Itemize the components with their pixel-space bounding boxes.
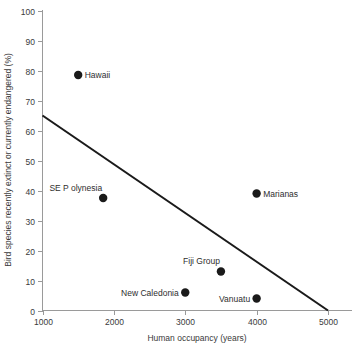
scatter-plot-figure: 0102030405060708090100 10002000300040005… <box>0 0 356 347</box>
data-point-label: Fiji Group <box>183 256 220 266</box>
y-tick-label: 90 <box>26 37 36 47</box>
data-point-marker <box>252 294 260 302</box>
data-point: SE P olynesia <box>49 183 107 203</box>
x-tick-marks <box>44 311 329 316</box>
y-tick-label: 0 <box>30 307 35 317</box>
data-point: Vanuatu <box>219 294 261 304</box>
data-points-group: HawaiiSE P olynesiaNew CaledoniaFiji Gro… <box>49 70 298 304</box>
data-point-marker <box>252 189 260 197</box>
y-tick-label: 60 <box>26 127 36 137</box>
data-point-label: New Caledonia <box>121 288 179 298</box>
data-point: Hawaii <box>74 70 110 80</box>
data-point: New Caledonia <box>121 288 189 298</box>
data-point-label: Marianas <box>263 189 298 199</box>
data-point-marker <box>217 267 225 275</box>
x-tick-label: 2000 <box>105 317 124 327</box>
data-point-label: SE P olynesia <box>49 183 102 193</box>
y-tick-label: 50 <box>26 157 36 167</box>
y-tick-marks <box>38 12 43 312</box>
data-point-marker <box>99 194 107 202</box>
y-tick-label: 70 <box>26 97 36 107</box>
x-tick-labels: 10002000300040005000 <box>34 317 338 327</box>
data-point-label: Hawaii <box>85 70 111 80</box>
x-tick-label: 5000 <box>319 317 338 327</box>
data-point-marker <box>74 71 82 79</box>
x-axis: 10002000300040005000 <box>34 311 352 328</box>
data-point-marker <box>181 288 189 296</box>
regression-trend-line <box>43 116 329 311</box>
plot-canvas: 0102030405060708090100 10002000300040005… <box>0 0 356 347</box>
y-axis-title: Bird species recently extinct or current… <box>3 53 13 267</box>
y-tick-label: 20 <box>26 247 36 257</box>
data-point: Fiji Group <box>183 256 225 276</box>
x-tick-label: 1000 <box>34 317 53 327</box>
y-tick-label: 100 <box>21 7 35 17</box>
y-tick-label: 40 <box>26 187 36 197</box>
trend-line-group <box>43 116 329 311</box>
y-tick-label: 10 <box>26 277 36 287</box>
y-tick-label: 30 <box>26 217 36 227</box>
y-tick-labels: 0102030405060708090100 <box>21 7 35 317</box>
x-tick-label: 4000 <box>248 317 267 327</box>
x-axis-title: Human occupancy (years) <box>147 333 246 343</box>
data-point: Marianas <box>252 189 298 199</box>
y-tick-label: 80 <box>26 67 36 77</box>
x-tick-label: 3000 <box>176 317 195 327</box>
y-axis: 0102030405060708090100 <box>21 7 43 317</box>
data-point-label: Vanuatu <box>219 294 250 304</box>
